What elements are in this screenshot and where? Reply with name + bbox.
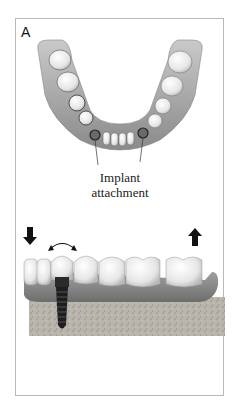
callout-label-line2: attachment [0, 185, 240, 200]
rotation-arrow-icon [48, 244, 77, 252]
down-arrow-icon [23, 227, 37, 245]
implant-attachment-left [90, 130, 100, 140]
side-view [23, 227, 225, 336]
up-arrow-icon [188, 228, 202, 246]
implant-attachment-right [138, 128, 148, 138]
denture-teeth [24, 256, 202, 287]
mandible-arch [38, 40, 203, 165]
callout-label-line1: Implant [0, 170, 240, 185]
dental-illustration [0, 0, 240, 403]
